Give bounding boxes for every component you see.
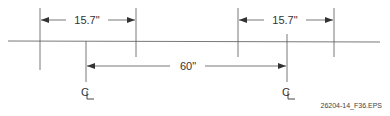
svg-text:C: C xyxy=(81,86,89,98)
centerline-spacing-label: 60" xyxy=(180,60,196,72)
dimension-diagram: 15.7" 15.7" 60" C C 26204-14_F36.EPS xyxy=(0,0,390,116)
centerline-spacing-dimension: 60" xyxy=(87,60,286,72)
left-spacing-label: 15.7" xyxy=(74,14,99,26)
baseline xyxy=(8,41,380,42)
left-centerline-symbol-icon: C xyxy=(81,86,94,99)
right-centerline-symbol-icon: C xyxy=(282,86,295,99)
svg-text:C: C xyxy=(282,86,290,98)
left-spacing-dimension: 15.7" xyxy=(41,14,135,26)
figure-caption: 26204-14_F36.EPS xyxy=(321,102,383,110)
right-spacing-label: 15.7" xyxy=(272,14,297,26)
right-spacing-dimension: 15.7" xyxy=(239,14,333,26)
